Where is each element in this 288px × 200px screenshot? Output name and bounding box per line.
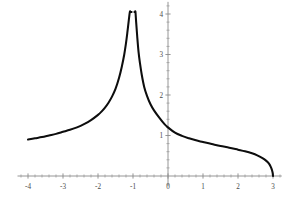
- x-tick-label: -1: [130, 183, 136, 191]
- x-tick-label: 3: [271, 183, 275, 191]
- x-tick-label: 1: [201, 183, 205, 191]
- y-tick-label: 2: [159, 92, 163, 100]
- chart-figure: -4-3-2-10123 1234: [0, 0, 288, 200]
- x-tick-label: 0: [166, 183, 170, 191]
- x-tick-label: 2: [236, 183, 240, 191]
- x-tick-label: -4: [25, 183, 31, 191]
- y-tick-label: 1: [159, 132, 163, 140]
- plot-canvas: -4-3-2-10123 1234: [0, 0, 288, 200]
- plot-background: [0, 0, 288, 200]
- x-tick-label: -3: [60, 183, 66, 191]
- x-tick-label: -2: [95, 183, 101, 191]
- y-tick-label: 4: [159, 11, 163, 19]
- y-tick-label: 3: [159, 51, 163, 59]
